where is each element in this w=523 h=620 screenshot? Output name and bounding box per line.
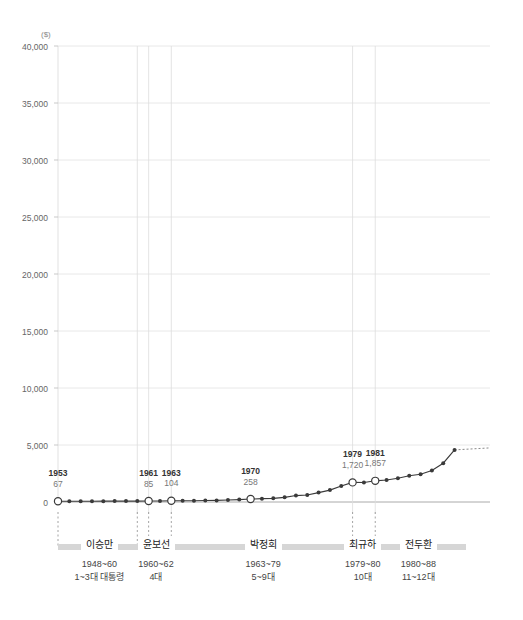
data-label-value: 104 xyxy=(148,478,194,489)
series-line-continuation xyxy=(455,448,490,450)
president-name: 윤보선 xyxy=(138,536,175,551)
data-label-value: 1,857 xyxy=(352,458,398,469)
president-entry-전두환: 전두환 1980~88 11~12대 xyxy=(358,536,478,584)
chart-container: ($) 40,000 35,000 30,000 25,000 20,000 1… xyxy=(0,0,523,620)
president-order: 4대 xyxy=(96,571,216,584)
data-label-1981: 1981 1,857 xyxy=(352,448,398,469)
data-label-1963: 1963 104 xyxy=(148,468,194,489)
data-label-1953: 1953 67 xyxy=(35,468,81,489)
vertical-marker-lines-group xyxy=(137,46,375,514)
plot-area xyxy=(0,0,523,620)
president-term: 1960~62 xyxy=(96,558,216,571)
president-name: 박정희 xyxy=(245,536,282,551)
president-timeline: 이승만 1948~60 1~3대 대통령 윤보선 1960~62 4대 박정희 … xyxy=(0,540,523,600)
president-term: 1980~88 xyxy=(358,558,478,571)
data-label-1970: 1970 258 xyxy=(228,466,274,487)
president-order: 11~12대 xyxy=(358,571,478,584)
data-label-year: 1970 xyxy=(228,466,274,477)
gridlines-group xyxy=(58,46,490,502)
data-label-value: 67 xyxy=(35,479,81,490)
president-name: 전두환 xyxy=(400,536,437,551)
data-label-value: 258 xyxy=(228,477,274,488)
data-label-year: 1981 xyxy=(352,448,398,459)
data-label-year: 1963 xyxy=(148,468,194,479)
data-label-year: 1953 xyxy=(35,468,81,479)
axis-tickmarks-group xyxy=(54,46,58,502)
president-entry-윤보선: 윤보선 1960~62 4대 xyxy=(96,536,216,584)
